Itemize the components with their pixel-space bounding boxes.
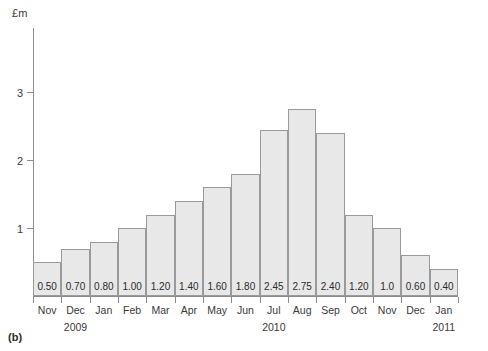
- bar: 2.45: [260, 130, 288, 296]
- bar-value-label: 2.75: [289, 282, 315, 292]
- bar: 2.40: [316, 133, 344, 296]
- bar: 2.75: [288, 109, 316, 296]
- y-axis-unit-label: £m: [12, 7, 28, 19]
- bar: 0.40: [430, 269, 458, 296]
- y-axis-tick-label: 3: [17, 87, 23, 98]
- bar: 0.70: [61, 249, 89, 296]
- x-axis-tick: [203, 297, 204, 303]
- x-axis-tick: [401, 297, 402, 303]
- bar-value-label: 0.40: [431, 282, 457, 292]
- x-axis-year-label: 2009: [46, 322, 106, 333]
- bar-value-label: 1.80: [232, 282, 258, 292]
- bar-chart-figure: £m 321 0.500.700.801.001.201.401.601.802…: [0, 0, 488, 351]
- bar: 1.40: [175, 201, 203, 296]
- bar: 1.80: [231, 174, 259, 296]
- bar: 0.80: [90, 242, 118, 296]
- x-axis-tick: [90, 297, 91, 303]
- x-axis-tick: [373, 297, 374, 303]
- bar-value-label: 2.45: [261, 282, 287, 292]
- bar-value-label: 1.0: [374, 282, 400, 292]
- bar-value-label: 1.20: [147, 282, 173, 292]
- bar: 1.20: [345, 215, 373, 296]
- bar: 1.00: [118, 228, 146, 296]
- bar-value-label: 0.70: [62, 282, 88, 292]
- x-axis-tick: [33, 297, 34, 303]
- bar-value-label: 0.50: [34, 282, 60, 292]
- bar: 0.50: [33, 262, 61, 296]
- bar: 1.0: [373, 228, 401, 296]
- plot-area: 0.500.700.801.001.201.401.601.802.452.75…: [33, 28, 458, 296]
- x-axis-tick: [458, 297, 459, 303]
- x-axis-tick: [316, 297, 317, 303]
- bar: 1.20: [146, 215, 174, 296]
- bar-value-label: 1.40: [176, 282, 202, 292]
- x-axis-tick: [118, 297, 119, 303]
- bar: 1.60: [203, 187, 231, 296]
- x-axis-tick: [345, 297, 346, 303]
- bar-value-label: 1.00: [119, 282, 145, 292]
- y-axis-tick-label: 1: [17, 223, 23, 234]
- x-axis-tick: [61, 297, 62, 303]
- x-axis-tick: [288, 297, 289, 303]
- x-axis-tick: [175, 297, 176, 303]
- x-axis-tick: [231, 297, 232, 303]
- x-axis-line: [33, 296, 458, 297]
- x-axis-category-label: Jan: [424, 305, 464, 316]
- bar: 0.60: [401, 255, 429, 296]
- bar-value-label: 1.20: [346, 282, 372, 292]
- bar-value-label: 1.60: [204, 282, 230, 292]
- x-axis-tick: [146, 297, 147, 303]
- x-axis-year-label: 2011: [414, 322, 474, 333]
- bar-value-label: 0.60: [402, 282, 428, 292]
- x-axis-year-label: 2010: [244, 322, 304, 333]
- x-axis-tick: [430, 297, 431, 303]
- x-axis-tick: [260, 297, 261, 303]
- y-axis-tick-label: 2: [17, 155, 23, 166]
- bar-value-label: 2.40: [317, 282, 343, 292]
- figure-caption: (b): [8, 332, 22, 343]
- bar-value-label: 0.80: [91, 282, 117, 292]
